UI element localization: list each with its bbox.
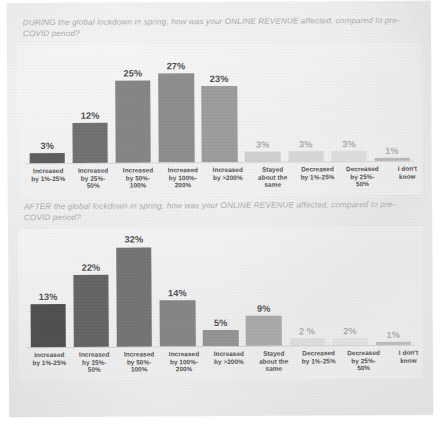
bar-value-label: 1% xyxy=(385,145,399,155)
bar-value-label: 3% xyxy=(299,139,313,149)
bar[interactable] xyxy=(158,73,194,162)
category-label-5: Stayedabout thesame xyxy=(251,350,296,373)
category-label-3: Increasedby 100%-200% xyxy=(162,350,207,373)
category-label-4: Increasedby >200% xyxy=(205,166,250,181)
category-label-line: same xyxy=(251,365,296,373)
bar-value-label: 13% xyxy=(39,291,58,301)
bar-column[interactable]: 27% xyxy=(158,50,194,162)
category-label-line: Decreased xyxy=(340,165,385,173)
bar-value-label: 2% xyxy=(343,326,357,336)
category-label-line: 50% xyxy=(71,182,116,190)
category-label-line: 200% xyxy=(162,365,207,373)
bar-column[interactable]: 5% xyxy=(202,234,238,346)
category-label-3: Increasedby 100%-200% xyxy=(160,166,205,189)
bar[interactable] xyxy=(331,151,366,161)
category-label-line: Decreased xyxy=(296,349,341,357)
bar-column[interactable]: 32% xyxy=(116,234,152,346)
category-label-line: 50% xyxy=(72,366,117,374)
category-label-line: 50% xyxy=(341,364,386,372)
bar-column[interactable]: 3% xyxy=(288,49,324,161)
plot-area-during: 3%12%25%27%23%3%3%3%1% xyxy=(25,49,414,163)
chart-question-after: AFTER the global lockdown in spring, how… xyxy=(8,199,432,224)
bar-value-label: 14% xyxy=(168,288,187,298)
bar-value-label: 23% xyxy=(210,73,229,83)
category-label-line: by >200% xyxy=(206,357,251,365)
bar-value-label: 22% xyxy=(82,262,101,272)
category-label-line: 200% xyxy=(160,181,205,189)
bar[interactable] xyxy=(30,153,65,163)
bar-column[interactable]: 25% xyxy=(115,50,151,162)
category-label-line: Decreased xyxy=(295,165,340,173)
category-label-0: Increasedby 1%-25% xyxy=(26,167,71,182)
bar-value-label: 3% xyxy=(256,139,270,149)
page-root: DURING the global lockdown in spring, ho… xyxy=(0,0,446,424)
category-label-line: know xyxy=(385,172,430,180)
bar-value-label: 25% xyxy=(124,68,143,78)
category-label-5: Stayedabout thesame xyxy=(250,166,295,189)
bar[interactable] xyxy=(116,247,152,347)
bar[interactable] xyxy=(72,123,108,163)
bar-value-label: 3% xyxy=(342,139,356,149)
category-label-line: by 1%-25% xyxy=(295,173,340,181)
bar[interactable] xyxy=(160,300,196,346)
category-label-8: I don'tknow xyxy=(385,165,430,180)
bar-value-label: 12% xyxy=(81,110,100,120)
bar-chart-during: 3%12%25%27%23%3%3%3%1% Increasedby 1%-25… xyxy=(17,43,422,197)
bar-value-label: 27% xyxy=(167,61,186,71)
bar[interactable] xyxy=(202,86,238,162)
category-label-line: by 1%-25% xyxy=(27,359,72,367)
category-label-line: 100% xyxy=(116,182,161,190)
category-label-2: Increasedby 50%-100% xyxy=(117,350,162,373)
category-label-6: Decreasedby 1%-25% xyxy=(295,165,340,180)
bar-value-label: 3% xyxy=(40,141,54,151)
bar[interactable] xyxy=(73,275,109,347)
bar[interactable] xyxy=(30,304,66,347)
category-label-1: Increasedby 25%-50% xyxy=(71,167,116,190)
bar-column[interactable]: 2% xyxy=(332,233,368,345)
bar[interactable] xyxy=(115,80,151,162)
bar-column[interactable]: 1% xyxy=(374,49,410,161)
bar-column[interactable]: 23% xyxy=(201,50,237,162)
bar-value-label: 9% xyxy=(257,303,271,313)
bar-column[interactable]: 13% xyxy=(30,235,66,347)
bar-column[interactable]: 3% xyxy=(29,51,65,163)
bar[interactable] xyxy=(203,330,238,346)
bar-value-label: 2 % xyxy=(299,326,315,336)
category-label-7: Decreasedby 25%-50% xyxy=(341,349,386,372)
chart-block-during: DURING the global lockdown in spring, ho… xyxy=(7,15,432,198)
category-label-line: Decreased xyxy=(341,349,386,357)
bar-value-label: 5% xyxy=(214,317,228,327)
bar[interactable] xyxy=(288,151,323,161)
category-label-4: Increasedby >200% xyxy=(206,350,251,365)
bar-column[interactable]: 14% xyxy=(159,234,195,346)
category-label-line: 50% xyxy=(340,180,385,188)
category-label-1: Increasedby 25%-50% xyxy=(72,351,117,374)
bar-column[interactable]: 3% xyxy=(331,49,367,161)
chart-question-during: DURING the global lockdown in spring, ho… xyxy=(7,15,431,40)
category-label-7: Decreasedby 25%-50% xyxy=(340,165,385,188)
document-sheet: DURING the global lockdown in spring, ho… xyxy=(7,1,434,418)
bar-column[interactable]: 9% xyxy=(246,234,282,346)
category-label-6: Decreasedby 1%-25% xyxy=(296,349,341,364)
chart-block-after: AFTER the global lockdown in spring, how… xyxy=(8,199,433,382)
bar-column[interactable]: 22% xyxy=(73,235,109,347)
category-label-line: by 1%-25% xyxy=(296,357,341,365)
category-label-line: 100% xyxy=(117,366,162,374)
category-label-line: know xyxy=(386,356,431,364)
category-label-line: same xyxy=(250,181,295,189)
bar-column[interactable]: 3% xyxy=(244,50,280,162)
category-label-line: by >200% xyxy=(205,173,250,181)
bar-column[interactable]: 1% xyxy=(375,233,411,345)
category-label-2: Increasedby 50%-100% xyxy=(116,166,161,189)
category-label-8: I don'tknow xyxy=(386,349,431,364)
bar-chart-after: 13%22%32%14%5%9%2 %2%1% Increasedby 1%-2… xyxy=(18,227,423,381)
bar[interactable] xyxy=(246,316,282,346)
category-label-line: by 1%-25% xyxy=(26,175,71,183)
bar-column[interactable]: 2 % xyxy=(289,233,325,345)
bar-value-label: 1% xyxy=(386,329,400,339)
bar-value-label: 32% xyxy=(125,234,144,244)
bar-column[interactable]: 12% xyxy=(72,51,108,163)
plot-area-after: 13%22%32%14%5%9%2 %2%1% xyxy=(26,233,415,347)
bar[interactable] xyxy=(245,152,280,162)
category-label-0: Increasedby 1%-25% xyxy=(27,351,72,366)
